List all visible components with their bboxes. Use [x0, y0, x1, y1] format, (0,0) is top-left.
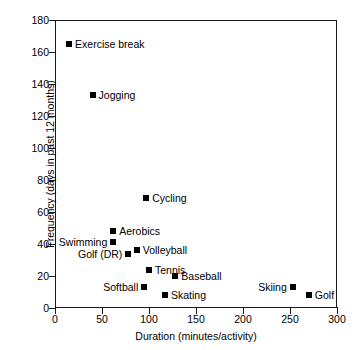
data-point-label: Skating — [171, 290, 206, 301]
data-point-label: Skiing — [258, 282, 287, 293]
data-point-label: Volleyball — [143, 245, 187, 256]
data-point-marker — [125, 251, 131, 257]
data-point-marker — [90, 92, 96, 98]
data-point-label: Exercise break — [75, 39, 144, 50]
data-point-label: Softball — [103, 282, 138, 293]
data-point-label: Aerobics — [119, 226, 160, 237]
data-point-label: Golf — [315, 290, 334, 301]
scatter-chart: 020406080100120140160180 050100150200250… — [0, 0, 361, 350]
data-point-marker — [290, 284, 296, 290]
x-axis-tick-label: 200 — [223, 314, 263, 325]
data-point-marker — [141, 284, 147, 290]
data-point-marker — [66, 41, 72, 47]
data-point-marker — [110, 228, 116, 234]
x-axis-tick-label: 300 — [317, 314, 357, 325]
data-point-marker — [146, 267, 152, 273]
data-point-marker — [172, 273, 178, 279]
plot-area — [55, 20, 337, 308]
data-point-label: Cycling — [152, 192, 186, 203]
x-axis-tick-label: 250 — [270, 314, 310, 325]
x-axis-tick-label: 0 — [35, 314, 75, 325]
y-axis-title: Frequency (days in past 12 months) — [44, 19, 56, 309]
x-axis-title: Duration (minutes/activity) — [55, 330, 337, 342]
data-point-marker — [143, 195, 149, 201]
data-point-marker — [134, 247, 140, 253]
x-axis-tick-label: 100 — [129, 314, 169, 325]
x-axis-tick-label: 50 — [82, 314, 122, 325]
data-point-label: Jogging — [99, 90, 136, 101]
data-point-label: Baseball — [181, 271, 221, 282]
data-point-marker — [306, 292, 312, 298]
x-axis-tick-label: 150 — [176, 314, 216, 325]
data-point-marker — [110, 239, 116, 245]
data-point-marker — [162, 292, 168, 298]
data-point-label: Golf (DR) — [78, 248, 122, 259]
